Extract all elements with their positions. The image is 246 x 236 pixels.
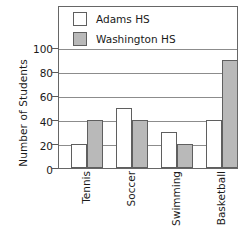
bar-adams-basketball [206, 120, 222, 168]
x-label-slot: Soccer [120, 169, 142, 236]
bar-washington-soccer [132, 120, 148, 168]
x-label-slot: Basketball [210, 169, 232, 236]
x-label-slot: Tennis [75, 169, 97, 236]
unfilled-square-swatch-icon [73, 12, 87, 26]
y-tick-label: 60 [22, 92, 53, 103]
y-tick-label: 20 [22, 141, 53, 152]
bar-washington-swimming [177, 144, 193, 168]
y-tick-label: 40 [22, 117, 53, 128]
legend-label: Washington HS [96, 33, 176, 45]
filled-square-swatch-icon [73, 32, 87, 46]
bar-adams-tennis [71, 144, 87, 168]
bar-chart: Number of Students 100 80 60 40 20 0 [0, 0, 246, 236]
bar-adams-soccer [116, 108, 132, 168]
legend-label: Adams HS [96, 13, 150, 25]
y-axis-tick-labels: 100 80 60 40 20 0 [22, 44, 53, 174]
plot-area: Adams HS Washington HS [58, 6, 238, 169]
legend-item-washington: Washington HS [73, 32, 176, 46]
y-tick-label: 80 [22, 68, 53, 79]
x-label-slot: Swimming [165, 169, 187, 236]
legend-item-adams: Adams HS [73, 12, 176, 26]
bar-washington-tennis [87, 120, 103, 168]
bar-washington-basketball [222, 60, 238, 168]
x-axis-tick-labels: Tennis Soccer Swimming Basketball [58, 169, 238, 236]
x-tick-label: Swimming [170, 171, 182, 226]
legend: Adams HS Washington HS [73, 12, 176, 46]
x-tick-label: Tennis [80, 171, 92, 204]
bar-adams-swimming [161, 132, 177, 168]
x-tick-label: Soccer [125, 171, 137, 206]
y-tick-label: 100 [22, 44, 53, 55]
y-tick-label: 0 [22, 165, 53, 176]
x-tick-label: Basketball [215, 171, 227, 225]
